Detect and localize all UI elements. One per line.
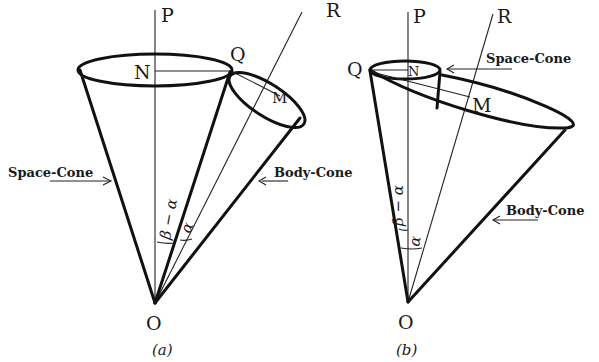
- label-q: Q: [347, 58, 363, 80]
- space-cone-left-edge: [80, 70, 155, 303]
- axis-r-line: [408, 14, 493, 302]
- caption-a: (a): [152, 341, 173, 359]
- panel-b: P R Q N M O Space-Cone Body-Cone β − α α…: [347, 5, 584, 359]
- label-p: P: [161, 4, 174, 26]
- label-o: O: [398, 311, 414, 333]
- angle-arc-beta-alpha: [399, 229, 408, 230]
- label-angle-beta-alpha: β − α: [389, 185, 407, 227]
- label-q: Q: [230, 43, 246, 65]
- angle-arc-alpha: [401, 248, 422, 249]
- label-body-cone: Body-Cone: [274, 165, 352, 180]
- label-angle-alpha: α: [177, 220, 197, 236]
- label-m: M: [272, 89, 287, 107]
- label-r: R: [326, 0, 341, 21]
- caption-b: (b): [396, 341, 417, 359]
- panel-a: P R Q N M O Space-Cone Body-Cone β − α α…: [8, 0, 352, 359]
- label-space-cone: Space-Cone: [8, 165, 93, 180]
- label-n: N: [134, 61, 151, 83]
- label-r: R: [497, 5, 512, 27]
- label-o: O: [146, 312, 162, 334]
- cone-diagram: P R Q N M O Space-Cone Body-Cone β − α α…: [0, 0, 599, 362]
- body-cone-base: [221, 63, 312, 138]
- label-space-cone: Space-Cone: [486, 51, 571, 66]
- label-m: M: [472, 94, 491, 116]
- angle-arc-alpha: [180, 239, 192, 240]
- label-n: N: [408, 64, 419, 79]
- space-cone-right-edge: [155, 72, 230, 303]
- label-body-cone: Body-Cone: [506, 203, 584, 218]
- angle-arc-beta-alpha: [157, 242, 175, 243]
- label-p: P: [413, 5, 426, 27]
- label-angle-alpha: α: [405, 235, 424, 248]
